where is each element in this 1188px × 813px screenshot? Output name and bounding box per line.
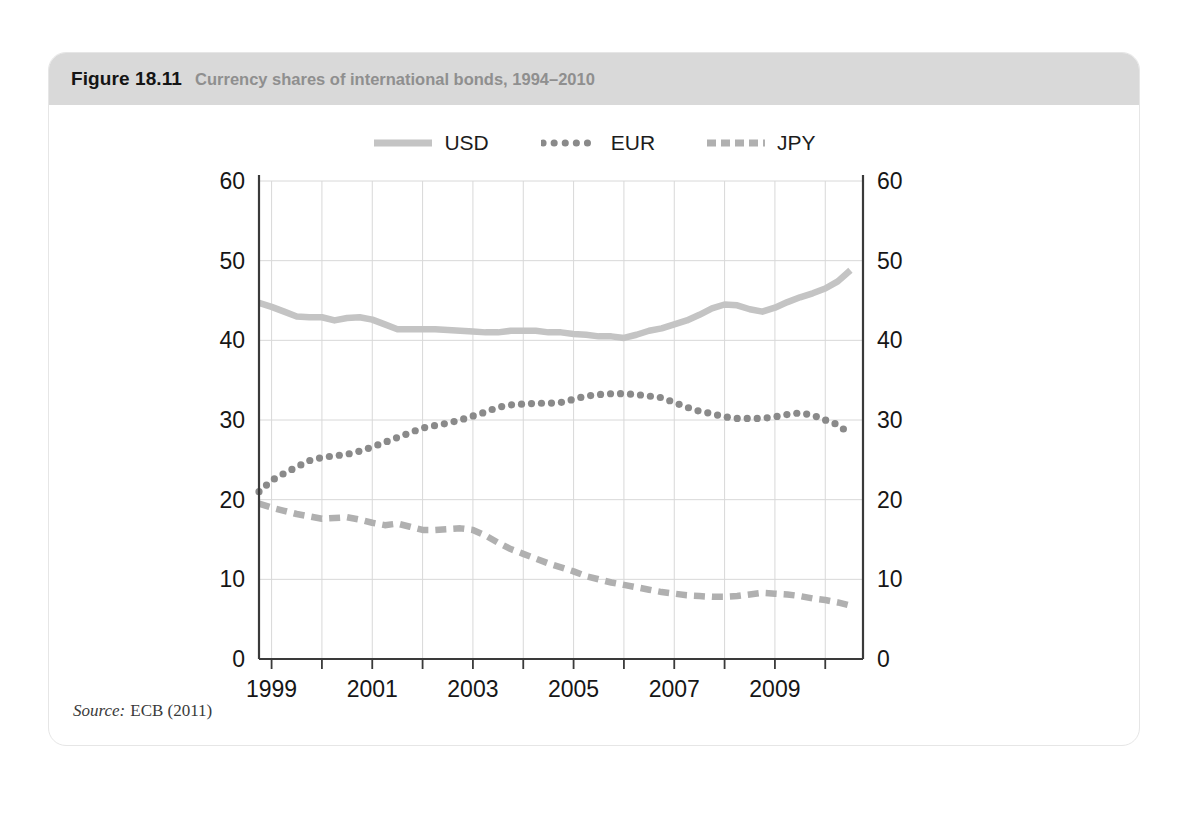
data-point xyxy=(374,441,381,448)
y-tick-label-right: 50 xyxy=(877,248,903,274)
data-point xyxy=(822,417,829,424)
data-point xyxy=(518,401,525,408)
screenshot-page: Figure 18.11 Currency shares of internat… xyxy=(0,0,1188,813)
data-point xyxy=(657,394,664,401)
data-point xyxy=(597,391,604,398)
x-tick-label: 1999 xyxy=(246,676,297,702)
data-point xyxy=(297,461,304,468)
data-point xyxy=(528,400,535,407)
data-point xyxy=(431,422,438,429)
data-point xyxy=(450,418,457,425)
source-text: ECB (2011) xyxy=(130,701,212,720)
figure-card: Figure 18.11 Currency shares of internat… xyxy=(48,52,1140,746)
data-point xyxy=(288,466,295,473)
data-point xyxy=(365,445,372,452)
data-point xyxy=(558,399,565,406)
x-tick-label: 2009 xyxy=(749,676,800,702)
data-point xyxy=(384,438,391,445)
y-tick-label-right: 60 xyxy=(877,168,903,194)
y-tick-label-left: 50 xyxy=(219,248,245,274)
data-point xyxy=(402,431,409,438)
data-point xyxy=(498,403,505,410)
y-tick-label-left: 60 xyxy=(219,168,245,194)
data-point xyxy=(734,415,741,422)
data-point xyxy=(479,409,486,416)
data-point xyxy=(773,413,780,420)
source-label: Source: xyxy=(73,701,125,720)
x-tick-label: 2001 xyxy=(347,676,398,702)
series-eur xyxy=(255,390,847,495)
data-point xyxy=(714,411,721,418)
data-point xyxy=(675,401,682,408)
data-point xyxy=(508,401,515,408)
data-point xyxy=(813,413,820,420)
data-point xyxy=(587,392,594,399)
data-point xyxy=(470,412,477,419)
data-point xyxy=(538,400,545,407)
x-tick-label: 2003 xyxy=(447,676,498,702)
data-point xyxy=(783,411,790,418)
y-tick-label-right: 0 xyxy=(877,646,890,672)
x-tick-label: 2005 xyxy=(548,676,599,702)
series-usd xyxy=(259,270,850,338)
y-tick-label-left: 0 xyxy=(232,646,245,672)
data-point xyxy=(840,425,847,432)
data-point xyxy=(441,420,448,427)
data-point xyxy=(607,390,614,397)
y-tick-label-right: 40 xyxy=(877,327,903,353)
y-tick-label-right: 20 xyxy=(877,487,903,513)
data-point xyxy=(744,415,751,422)
currency-shares-line-chart: 0010102020303040405050606019992001200320… xyxy=(49,53,1140,746)
x-tick-label: 2007 xyxy=(649,676,700,702)
data-point xyxy=(548,399,555,406)
series-jpy xyxy=(259,504,850,606)
y-tick-label-right: 30 xyxy=(877,407,903,433)
data-point xyxy=(694,407,701,414)
data-point xyxy=(724,414,731,421)
data-point xyxy=(685,404,692,411)
data-point xyxy=(393,434,400,441)
data-point xyxy=(793,410,800,417)
data-point xyxy=(355,448,362,455)
y-tick-label-left: 10 xyxy=(219,566,245,592)
source-note: Source:ECB (2011) xyxy=(73,701,212,721)
data-point xyxy=(279,470,286,477)
data-point xyxy=(316,454,323,461)
data-point xyxy=(346,450,353,457)
data-point xyxy=(627,391,634,398)
y-tick-label-left: 40 xyxy=(219,327,245,353)
data-point xyxy=(460,415,467,422)
data-point xyxy=(647,393,654,400)
data-point xyxy=(271,475,278,482)
data-point xyxy=(489,406,496,413)
y-tick-label-right: 10 xyxy=(877,566,903,592)
data-point xyxy=(617,390,624,397)
data-point xyxy=(577,394,584,401)
data-point xyxy=(831,420,838,427)
data-point xyxy=(412,427,419,434)
data-point xyxy=(764,414,771,421)
data-point xyxy=(263,481,270,488)
data-point xyxy=(803,410,810,417)
data-point xyxy=(421,424,428,431)
y-tick-label-left: 20 xyxy=(219,487,245,513)
chart-area: 0010102020303040405050606019992001200320… xyxy=(49,53,1140,746)
data-point xyxy=(306,457,313,464)
data-point xyxy=(704,409,711,416)
data-point xyxy=(754,415,761,422)
data-point xyxy=(666,397,673,404)
data-point xyxy=(637,391,644,398)
y-tick-label-left: 30 xyxy=(219,407,245,433)
data-point xyxy=(326,453,333,460)
data-point xyxy=(336,452,343,459)
data-point xyxy=(568,396,575,403)
